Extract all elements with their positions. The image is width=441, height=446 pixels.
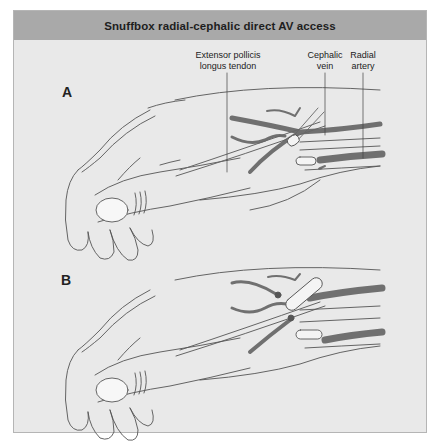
radial-artery-label: Radial artery bbox=[344, 50, 382, 72]
cephalic-vein-label: Cephalic vein bbox=[303, 50, 347, 72]
panel-b-label: B bbox=[61, 272, 71, 288]
panel-a-hand bbox=[65, 88, 380, 261]
panel-a-vessels bbox=[176, 108, 382, 176]
tendon-label: Extensor pollicis longus tendon bbox=[185, 50, 271, 72]
panel-b-vessels bbox=[176, 274, 382, 356]
panel-a-label: A bbox=[62, 84, 72, 100]
